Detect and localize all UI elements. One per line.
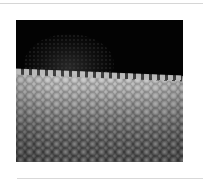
top-divider [0,3,203,4]
micrograph-image [16,20,183,162]
bottom-divider [17,178,203,179]
page [0,0,203,183]
